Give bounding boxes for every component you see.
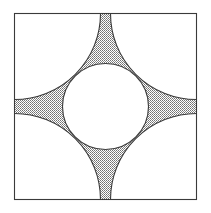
- geometric-figure: Square with inscribed circle and four ta…: [0, 0, 211, 213]
- figure-container: Square with inscribed circle and four ta…: [0, 0, 211, 213]
- stippled-star-region: [0, 0, 211, 213]
